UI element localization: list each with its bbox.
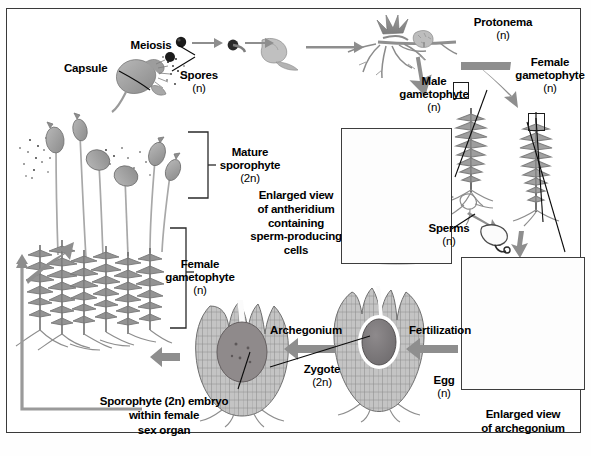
label-female-gametophyte-left-line1: Female xyxy=(152,258,248,271)
label-mature-sporophyte-line2: sporophyte xyxy=(204,159,296,172)
label-egg-ploidy: (n) xyxy=(424,387,464,400)
label-male-gametophyte-line1: Male xyxy=(388,75,480,88)
embryo-caption-line3: sex organ xyxy=(80,423,248,437)
label-fertilization-text: Fertilization xyxy=(409,324,471,336)
label-sperms-ploidy: (n) xyxy=(419,235,479,248)
embryo-caption-line2: within female xyxy=(80,408,248,422)
label-zygote-text: Zygote xyxy=(294,363,350,376)
antheridium-caption-line5: cells xyxy=(244,244,348,258)
archegonium-caption: Enlarged view of archegonium xyxy=(461,408,585,436)
label-male-gametophyte-line2: gametophyte xyxy=(388,88,480,101)
label-sperms-text: Sperms xyxy=(419,222,479,235)
label-egg-text: Egg xyxy=(424,374,464,387)
label-spores-ploidy: (n) xyxy=(169,82,229,95)
label-male-gametophyte: Male gametophyte (n) xyxy=(388,75,480,114)
embryo-caption-line1: Sporophyte (2n) embryo xyxy=(80,394,248,408)
label-female-gametophyte-left: Female gametophyte (n) xyxy=(152,258,248,297)
label-sperms: Sperms (n) xyxy=(419,222,479,248)
label-egg: Egg (n) xyxy=(424,374,464,400)
label-female-gametophyte-top: Female gametophyte (n) xyxy=(509,56,591,95)
female-gametophyte-callout-box xyxy=(528,113,545,131)
label-female-gametophyte-top-line1: Female xyxy=(509,56,591,69)
embryo-caption: Sporophyte (2n) embryo within female sex… xyxy=(80,394,248,437)
archegonium-caption-line2: of archegonium xyxy=(461,422,585,436)
label-capsule: Capsule xyxy=(64,62,134,75)
label-zygote: Zygote (2n) xyxy=(294,363,350,389)
antheridium-caption-line3: containing xyxy=(244,217,348,231)
label-male-gametophyte-ploidy: (n) xyxy=(388,101,480,114)
label-archegonium: Archegonium xyxy=(264,324,348,337)
archegonium-caption-line1: Enlarged view xyxy=(461,408,585,422)
label-archegonium-text: Archegonium xyxy=(270,324,342,336)
label-spores-text: Spores xyxy=(169,69,229,82)
label-protonema-text: Protonema xyxy=(455,16,551,29)
label-female-gametophyte-left-line2: gametophyte xyxy=(152,271,248,284)
label-capsule-text: Capsule xyxy=(64,62,107,74)
label-female-gametophyte-top-line2: gametophyte xyxy=(509,69,591,82)
antheridium-caption-line1: Enlarged view xyxy=(244,189,348,203)
label-mature-sporophyte-line1: Mature xyxy=(204,146,296,159)
label-mature-sporophyte: Mature sporophyte (2n) xyxy=(204,146,296,185)
label-spores: Spores (n) xyxy=(169,69,229,95)
label-protonema-ploidy: (n) xyxy=(455,29,551,42)
label-female-gametophyte-left-ploidy: (n) xyxy=(152,284,248,297)
antheridium-caption-line2: of antheridium xyxy=(244,203,348,217)
moss-life-cycle-figure: Meiosis Capsule Spores (n) Protonema (n)… xyxy=(0,0,591,456)
label-protonema: Protonema (n) xyxy=(455,16,551,42)
label-female-gametophyte-top-ploidy: (n) xyxy=(509,82,591,95)
label-fertilization: Fertilization xyxy=(398,324,482,337)
label-meiosis: Meiosis xyxy=(108,39,194,52)
antheridium-caption-line4: sperm-producing xyxy=(244,230,348,244)
label-meiosis-text: Meiosis xyxy=(131,39,172,51)
label-mature-sporophyte-ploidy: (2n) xyxy=(204,172,296,185)
label-zygote-ploidy: (2n) xyxy=(294,376,350,389)
antheridium-caption: Enlarged view of antheridium containing … xyxy=(244,189,348,258)
